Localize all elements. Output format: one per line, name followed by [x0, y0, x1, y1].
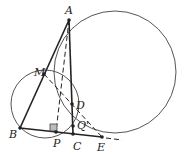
label-M: M [33, 66, 46, 79]
label-Q: Q' [77, 119, 89, 132]
geometry-diagram: A M B P C D Q' E [0, 0, 187, 158]
point-C [71, 132, 75, 136]
label-D: D [75, 99, 85, 112]
label-P: P [52, 137, 61, 150]
point-A [67, 18, 71, 22]
point-D [70, 102, 74, 106]
segment-E-extension [106, 138, 122, 140]
label-E: E [96, 141, 105, 154]
point-B [18, 126, 22, 130]
point-E [100, 135, 104, 139]
label-A: A [64, 4, 73, 17]
dashed-AP [56, 20, 69, 132]
segment-AC [69, 20, 73, 134]
right-angle-marker [50, 124, 57, 131]
point-P [54, 130, 58, 134]
label-B: B [8, 128, 17, 141]
point-Q [71, 124, 75, 128]
label-C: C [73, 140, 82, 153]
